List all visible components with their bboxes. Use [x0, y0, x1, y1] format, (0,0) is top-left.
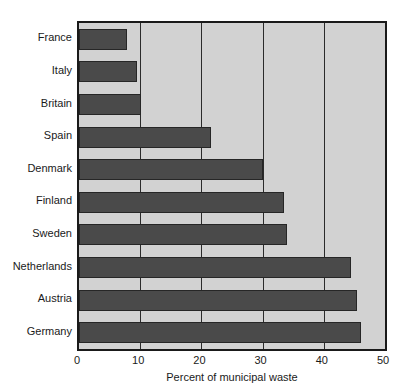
bar-spain [79, 127, 211, 148]
bar-italy [79, 61, 137, 82]
category-label-germany: Germany [0, 325, 72, 337]
bars-layer [79, 23, 385, 349]
x-tick-30: 30 [254, 354, 266, 367]
category-label-italy: Italy [0, 64, 72, 76]
y-axis-category-labels: FranceItalyBritainSpainDenmarkFinlandSwe… [0, 21, 72, 351]
x-tick-50: 50 [377, 354, 389, 367]
x-tick-40: 40 [316, 354, 328, 367]
bar-chart: FranceItalyBritainSpainDenmarkFinlandSwe… [0, 0, 417, 390]
x-tick-0: 0 [74, 354, 80, 367]
x-axis-title: Percent of municipal waste [77, 371, 387, 384]
bar-sweden [79, 224, 287, 245]
category-label-france: France [0, 31, 72, 43]
bar-netherlands [79, 257, 351, 278]
bar-france [79, 29, 127, 50]
bar-britain [79, 94, 141, 115]
bar-germany [79, 322, 361, 343]
category-label-finland: Finland [0, 194, 72, 206]
bar-finland [79, 192, 284, 213]
category-label-sweden: Sweden [0, 227, 72, 239]
category-label-spain: Spain [0, 129, 72, 141]
x-axis-tick-labels: 01020304050 [0, 354, 417, 368]
x-tick-20: 20 [193, 354, 205, 367]
category-label-denmark: Denmark [0, 162, 72, 174]
plot-area [77, 21, 387, 351]
category-label-austria: Austria [0, 292, 72, 304]
bar-denmark [79, 159, 263, 180]
category-label-netherlands: Netherlands [0, 260, 72, 272]
x-tick-10: 10 [132, 354, 144, 367]
category-label-britain: Britain [0, 97, 72, 109]
bar-austria [79, 290, 357, 311]
